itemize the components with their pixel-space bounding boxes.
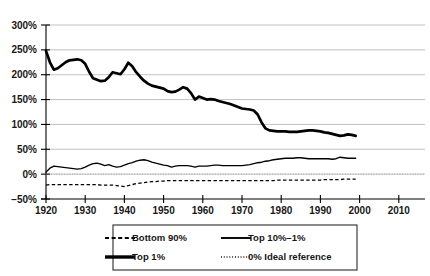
series-top-10-1 (46, 157, 356, 172)
x-tick-label: 2010 (388, 205, 411, 216)
x-axis (41, 195, 425, 203)
x-tick-label: 1980 (270, 205, 293, 216)
x-tick-label: 1940 (113, 205, 136, 216)
y-tick-label: 0% (23, 169, 38, 180)
series-bottom-90 (46, 179, 356, 186)
x-tick-label: 1960 (192, 205, 215, 216)
y-tick-label: 200% (11, 69, 37, 80)
legend-label: 0% Ideal reference (248, 251, 331, 262)
legend-label: Top 10%–1% (248, 232, 306, 243)
y-tick-label: 150% (11, 94, 37, 105)
x-tick-label: 1950 (152, 205, 175, 216)
y-tick-label: 300% (11, 20, 37, 31)
y-tick-labels: 300%250%200%150%100%50%0%−50% (11, 20, 37, 205)
series-top-1 (46, 51, 356, 136)
x-tick-label: 1970 (231, 205, 254, 216)
x-tick-label: 1990 (309, 205, 332, 216)
y-tick-label: 100% (11, 119, 37, 130)
x-tick-label: 1920 (35, 205, 58, 216)
legend: Bottom 90%Top 10%–1%Top 1%0% Ideal refer… (105, 225, 357, 270)
legend-label: Bottom 90% (132, 232, 187, 243)
chart-container: 300%250%200%150%100%50%0%−50% 1920193019… (0, 0, 430, 276)
series-group (46, 51, 425, 187)
y-tick-label: 250% (11, 44, 37, 55)
legend-label: Top 1% (132, 251, 166, 262)
y-tick-label: 50% (17, 144, 37, 155)
y-tick-label: −50% (11, 194, 37, 205)
x-tick-label: 1930 (74, 205, 97, 216)
line-chart: 300%250%200%150%100%50%0%−50% 1920193019… (0, 0, 430, 276)
x-tick-labels: 1920193019401950196019701980199020002010 (35, 205, 410, 216)
x-tick-label: 2000 (348, 205, 371, 216)
gridlines (46, 25, 425, 174)
